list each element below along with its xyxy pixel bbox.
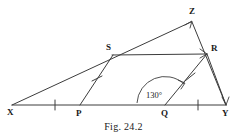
arrowhead-z-icon: [185, 21, 192, 28]
segment-SR: [112, 54, 207, 55]
arrowhead-y-icon: [222, 97, 229, 105]
segment-QR: [165, 54, 207, 105]
vertex-label-p: P: [76, 108, 82, 118]
vertex-label-s: S: [106, 42, 111, 52]
vertex-label-r: R: [211, 43, 218, 53]
geometry-figure: X P Q Y S R Z 130° Fig. 24.2: [0, 0, 247, 136]
vertex-label-q: Q: [161, 108, 168, 118]
segment-PS: [80, 55, 113, 105]
ray-XZ: [12, 22, 191, 105]
figure-caption: Fig. 24.2: [0, 121, 247, 132]
vertex-label-x: X: [7, 107, 14, 117]
segment-RY: [207, 54, 226, 105]
vertex-label-y: Y: [222, 108, 229, 118]
geometry-diagram: X P Q Y S R Z 130°: [0, 0, 247, 136]
vertex-label-z: Z: [189, 6, 195, 16]
tick-mark-ps: [92, 76, 102, 81]
angle-label-130: 130°: [146, 90, 162, 100]
